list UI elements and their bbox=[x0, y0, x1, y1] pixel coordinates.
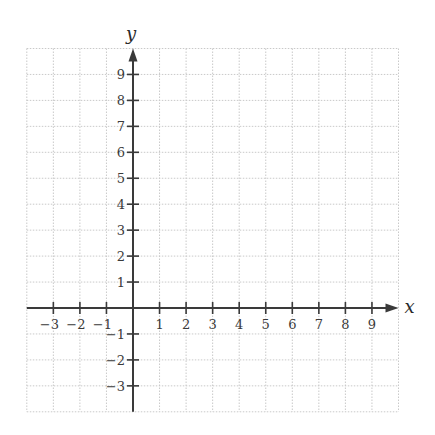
y-tick-label: −2 bbox=[106, 353, 125, 368]
y-tick-label: 2 bbox=[117, 249, 125, 264]
x-tick-label: 8 bbox=[341, 317, 349, 332]
y-tick-label: 8 bbox=[117, 93, 125, 108]
x-tick-label: 4 bbox=[235, 317, 243, 332]
y-tick-label: 4 bbox=[117, 197, 125, 212]
coordinate-plane: −3−2−1123456789 −3−2−1123456789 x y bbox=[0, 0, 435, 435]
x-tick-label: −3 bbox=[40, 317, 59, 332]
grid-lines bbox=[27, 49, 399, 412]
y-tick-label: 1 bbox=[117, 275, 125, 290]
y-tick-label: 5 bbox=[117, 171, 125, 186]
x-tick-label: 5 bbox=[262, 317, 270, 332]
x-tick-label: 3 bbox=[209, 317, 217, 332]
x-tick-label: 2 bbox=[182, 317, 190, 332]
y-axis-label: y bbox=[125, 23, 137, 44]
x-tick-label: 6 bbox=[288, 317, 296, 332]
y-axis-ticks: −3−2−1123456789 bbox=[106, 67, 139, 393]
y-tick-label: 9 bbox=[117, 67, 125, 82]
y-axis-arrow-icon bbox=[129, 49, 138, 62]
y-tick-label: 7 bbox=[117, 119, 125, 134]
y-tick-label: −1 bbox=[106, 327, 125, 342]
x-axis-arrow-icon bbox=[386, 304, 399, 313]
x-tick-label: −2 bbox=[66, 317, 85, 332]
y-tick-label: 6 bbox=[117, 145, 125, 160]
x-tick-label: 7 bbox=[315, 317, 323, 332]
y-tick-label: 3 bbox=[117, 223, 125, 238]
x-tick-label: 9 bbox=[368, 317, 376, 332]
x-tick-label: 1 bbox=[155, 317, 163, 332]
y-tick-label: −3 bbox=[106, 379, 125, 394]
x-axis-ticks: −3−2−1123456789 bbox=[40, 302, 376, 332]
x-axis-label: x bbox=[405, 296, 415, 317]
